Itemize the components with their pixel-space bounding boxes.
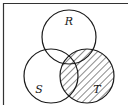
set-r-label: R <box>64 15 73 28</box>
venn-diagram: R S T <box>0 0 128 105</box>
set-s-label: S <box>35 83 43 96</box>
